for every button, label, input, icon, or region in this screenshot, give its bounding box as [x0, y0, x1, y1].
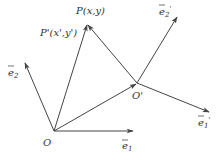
label-P: P(x,y) — [75, 5, 105, 16]
vector-e2-prime — [137, 17, 177, 83]
vector-e1-prime — [137, 83, 209, 112]
vector-O-prime-P — [88, 25, 137, 83]
label-O: O — [43, 137, 51, 148]
label-O-prime: O' — [132, 90, 143, 101]
label-e1-prime: e1' — [198, 116, 210, 130]
svg-text:e1: e1 — [122, 140, 132, 153]
svg-text:e2': e2' — [159, 5, 171, 19]
label-e2: e2 — [8, 66, 19, 80]
svg-text:e1': e1' — [198, 116, 210, 130]
coordinate-diagram: P(x,y) P'(x',y') O O' e2 e1 e2' e1' — [0, 0, 218, 166]
label-P-prime: P'(x',y') — [39, 27, 77, 38]
svg-text:e2: e2 — [8, 67, 19, 80]
label-e2-prime: e2' — [159, 5, 171, 19]
label-e1: e1 — [122, 140, 132, 153]
vector-e2 — [25, 63, 54, 131]
